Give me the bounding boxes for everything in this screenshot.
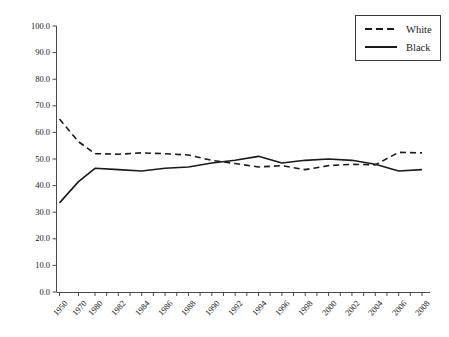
legend-swatch-solid xyxy=(365,42,399,52)
legend-entry-black: Black xyxy=(356,38,440,56)
legend-label-black: Black xyxy=(406,42,431,53)
series-line-white xyxy=(60,119,423,170)
data-series-group xyxy=(60,119,423,203)
chart-legend: White Black xyxy=(355,15,441,61)
series-line-black xyxy=(60,156,423,203)
legend-entry-white: White xyxy=(356,20,440,38)
line-chart: 0.010.020.030.040.050.060.070.080.090.01… xyxy=(0,0,449,337)
legend-label-white: White xyxy=(406,24,432,35)
y-axis-ticks xyxy=(53,26,57,292)
legend-swatch-dashed xyxy=(365,24,399,34)
